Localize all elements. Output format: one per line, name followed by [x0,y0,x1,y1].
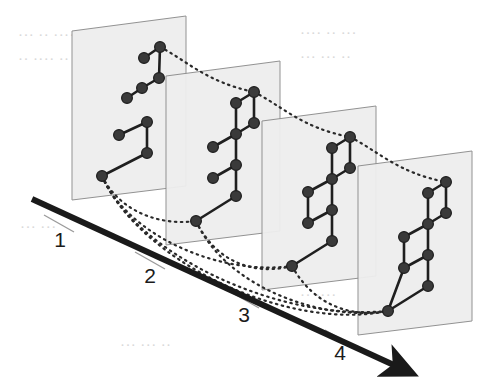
axis-label-4: 4 [334,341,346,364]
bleed-text-line-6: ·· ···· [300,287,337,303]
plane-3-node-p3n1 [345,132,356,143]
plane-2-node-p2n1 [249,87,260,98]
plane-3-node-p3n8 [327,236,338,247]
plane-3-node-p3n7 [303,218,314,229]
planes-group [72,16,472,335]
bleed-text-line-1: ··· ·· ···· [18,27,75,43]
plane-4-node-p4n8 [423,281,434,292]
plane-1-node-p1n7 [114,130,125,141]
plane-4-node-p4n1 [441,177,452,188]
figure-root: ··· ·· ········ ·· ····· ···· ····· ··· … [0,0,484,392]
plane-2-node-p2n7 [208,173,219,184]
bleed-text-line-4: ··· ··· ·· [300,49,351,65]
bleed-text-line-5: ··· ··· [20,219,57,235]
plane-1-node-p1n8 [142,148,153,159]
plane-2-node-p2n5 [208,142,219,153]
plane-2-node-p2n6 [231,160,242,171]
plane-1-node-p1n3 [154,73,165,84]
plane-4-node-p4n5 [399,232,410,243]
plane-4 [358,151,472,335]
plane-2-node-p2n8 [231,191,242,202]
plane-4-node-p4n3 [441,208,452,219]
plane-3-node-p3n3 [345,163,356,174]
axis-label-3: 3 [238,303,250,326]
axis-label-2: 2 [144,264,156,287]
plane-2-node-p2n9 [191,216,202,227]
bleed-text-line-3: ·· ···· ·· [18,51,69,67]
plane-1-node-p1n2 [139,53,150,64]
plane-1-node-p1n4 [137,83,148,94]
layered-planes-diagram: ··· ·· ········ ·· ····· ···· ····· ··· … [0,0,484,392]
plane-2-node-p2n3 [249,118,260,129]
bleed-text-line-7: ··· ··· ·· [120,337,171,353]
plane-4-node-p4n4 [423,219,434,230]
bleed-text-line-2: ···· ·· ··· [300,25,357,41]
plane-4-node-p4n6 [423,250,434,261]
plane-3-node-p3n6 [327,205,338,216]
plane-4-node-p4n9 [383,306,394,317]
plane-4-node-p4n7 [399,263,410,274]
plane-2-node-p2n2 [231,98,242,109]
plane-3-node-p3n5 [303,187,314,198]
plane-3-node-p3n2 [327,143,338,154]
plane-1-node-p1n6 [142,117,153,128]
plane-1-node-p1n5 [122,93,133,104]
plane-1-node-p1n1 [155,42,166,53]
plane-3-node-p3n4 [327,174,338,185]
plane-4-node-p4n2 [423,188,434,199]
plane-1-node-p1n9 [97,171,108,182]
plane-3-node-p3n9 [287,261,298,272]
axis-label-1: 1 [54,228,66,251]
plane-2-node-p2n4 [231,129,242,140]
